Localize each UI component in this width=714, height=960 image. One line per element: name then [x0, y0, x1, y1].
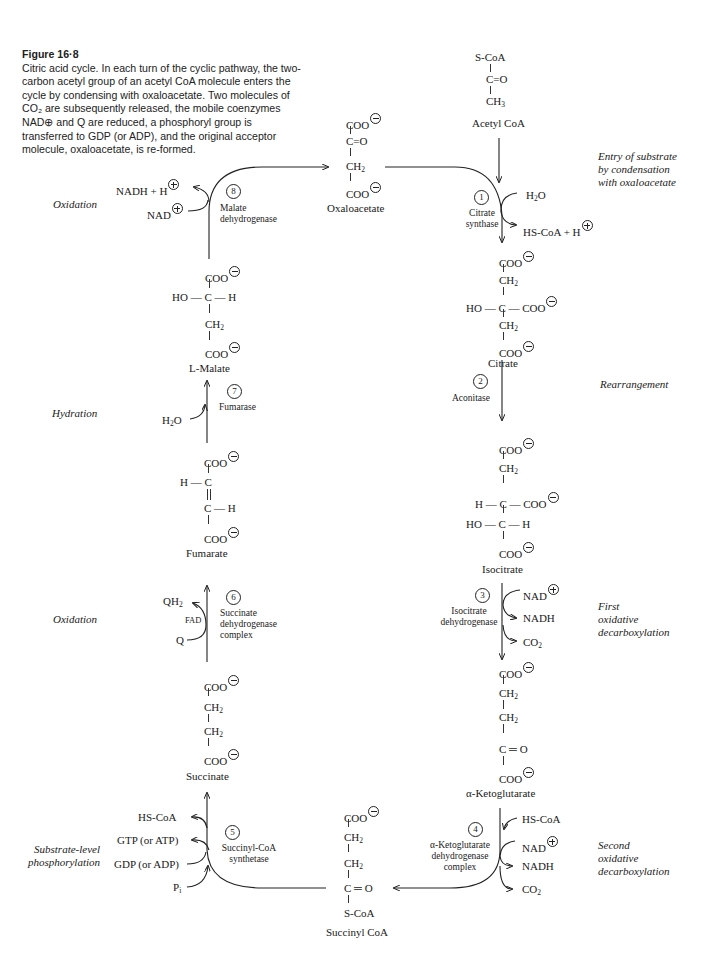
bond [503, 475, 504, 483]
bond [503, 451, 504, 459]
step-8-output-nadh: NADH + H [116, 179, 179, 197]
step-6-number: 6 [226, 590, 241, 605]
step-7-enzyme: Fumarase [219, 402, 256, 413]
akg-row-4: C ═ O [499, 743, 528, 755]
negative-charge-icon [523, 341, 534, 352]
bond [503, 264, 504, 272]
positive-charge-icon [547, 836, 558, 847]
step-1-enzyme: Citratesynthase [462, 208, 502, 230]
process-label-second-oxidative-decarboxylation: Secondoxidativedecarboxylation [598, 839, 669, 878]
step-1-input-h2o: H2O [526, 189, 546, 201]
isocitrate-row-1: COO [499, 438, 534, 456]
negative-charge-icon [370, 182, 381, 193]
bond [503, 332, 504, 340]
negative-charge-icon [523, 662, 534, 673]
step-4-output-nadh: NADH [522, 860, 554, 872]
positive-charge-icon [168, 179, 179, 190]
negative-charge-icon [523, 438, 534, 449]
oxaloacetate-row-4: COO [346, 182, 381, 200]
bond [208, 738, 209, 746]
step-1-number: 1 [474, 190, 489, 205]
malate-row-1: COO [205, 266, 240, 284]
step-5-input-pi: Pi [173, 881, 181, 893]
succinyl-coa-name: Succinyl CoA [326, 926, 388, 938]
isocitrate-name: Isocitrate [482, 563, 523, 575]
isocitrate-row-2: CH2 [499, 462, 518, 474]
fumarate-row-3: C — H [204, 502, 236, 514]
positive-charge-icon [582, 220, 593, 231]
negative-charge-icon [370, 113, 381, 124]
bond [350, 126, 351, 134]
step-4-input-nad: NAD [522, 836, 558, 854]
bond [350, 173, 351, 181]
step-3-enzyme: Isocitratedehydrogenase [440, 606, 498, 628]
step-2-number: 2 [473, 374, 488, 389]
bond [503, 756, 504, 765]
isocitrate-row-5: COO [499, 542, 534, 560]
step-4-number: 4 [468, 822, 483, 837]
process-label-substrate-level-phosphorylation: Substrate-levelphosphorylation [22, 843, 100, 869]
oxaloacetate-row-2: C=O [346, 135, 367, 147]
succinyl-coa-row-1: COO [344, 806, 379, 824]
step-6-output-qh2: QH2 [163, 595, 183, 607]
bond [209, 279, 210, 288]
step-5-output-gtp: GTP (or ATP) [117, 834, 178, 846]
positive-charge-icon [548, 584, 559, 595]
bond [503, 287, 504, 295]
oxaloacetate-name: Oxaloacetate [327, 202, 384, 214]
bond [208, 464, 209, 473]
citrate-row-4: CH2 [499, 319, 518, 331]
negative-charge-icon [546, 296, 557, 307]
step-4-enzyme: α-Ketoglutaratedehydrogenasecomplex [424, 840, 496, 873]
succinyl-coa-row-2: CH2 [344, 831, 363, 843]
negative-charge-icon [228, 451, 239, 462]
succinate-row-4: COO [204, 749, 239, 767]
step-7-number: 7 [227, 384, 242, 399]
fumarate-row-4: COO [204, 527, 239, 545]
process-label-hydration: Hydration [52, 407, 97, 420]
acetyl-coa-name: Acetyl CoA [472, 117, 525, 129]
double-bond-b [210, 489, 211, 500]
isocitrate-row-3: H — C — COO [475, 492, 559, 510]
bond [348, 895, 349, 903]
step-2-enzyme: Aconitase [446, 393, 496, 404]
positive-charge-icon [172, 203, 183, 214]
fumarate-row-2: H — C [180, 476, 212, 488]
bond [348, 844, 349, 852]
succinyl-coa-row-3: CH2 [344, 857, 363, 869]
fumarate-row-1: COO [204, 451, 239, 469]
negative-charge-icon [548, 492, 559, 503]
bond [208, 515, 209, 524]
akg-name: α-Ketoglutarate [466, 787, 535, 799]
bond [490, 64, 491, 72]
process-label-oxidation-6: Oxidation [53, 613, 97, 626]
step-4-input-hscoa: HS-CoA [522, 813, 561, 825]
negative-charge-icon [523, 767, 534, 778]
step-7-input-h2o: H2O [162, 414, 182, 426]
double-bond-a [207, 489, 208, 500]
process-label-oxidation-8: Oxidation [53, 198, 97, 211]
process-label-entry: Entry of substrateby condensationwith ox… [598, 150, 677, 189]
bond [503, 700, 504, 709]
negative-charge-icon [228, 749, 239, 760]
step-8-number: 8 [226, 184, 241, 199]
bond [503, 724, 504, 733]
bond [348, 819, 349, 827]
akg-row-3: CH2 [499, 711, 518, 723]
bond [503, 531, 504, 539]
step-5-input-gdp: GDP (or ADP) [114, 858, 179, 870]
bond [348, 870, 349, 878]
citrate-row-2: CH2 [499, 274, 518, 286]
akg-row-2: CH2 [499, 687, 518, 699]
succinate-row-2: CH2 [204, 701, 223, 713]
akg-row-5: COO [499, 767, 534, 785]
negative-charge-icon [228, 527, 239, 538]
bond [209, 304, 210, 313]
step-4-output-co2: CO2 [522, 883, 541, 895]
bond [208, 688, 209, 696]
step-5-output-hscoa: HS-CoA [138, 811, 177, 823]
bond [503, 505, 504, 513]
negative-charge-icon [228, 675, 239, 686]
succinate-row-1: COO [204, 675, 239, 693]
negative-charge-icon [229, 342, 240, 353]
